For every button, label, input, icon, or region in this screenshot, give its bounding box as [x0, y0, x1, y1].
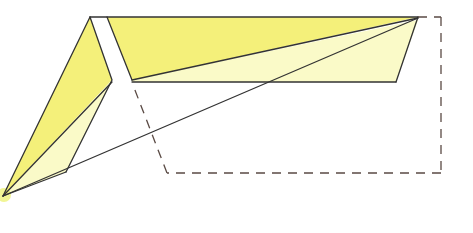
folding-diagram: [0, 0, 473, 233]
dashed-left-edge: [133, 85, 167, 173]
